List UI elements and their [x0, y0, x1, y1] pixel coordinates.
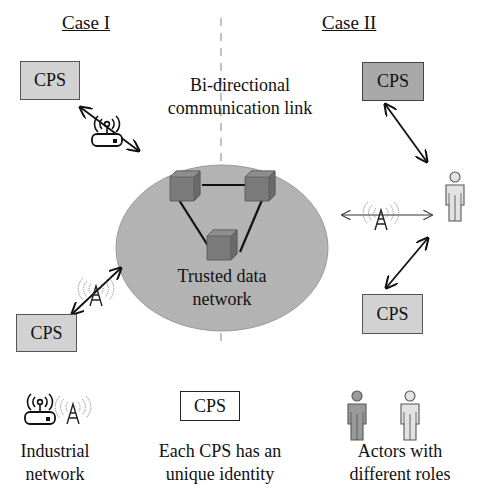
cps-box-case2-bottom: CPS: [362, 294, 423, 334]
legend-cps-box: CPS: [180, 391, 240, 421]
router-icon: [92, 116, 122, 146]
case-2-title: Case II: [322, 12, 376, 34]
cps-box-case1-bottom: CPS: [16, 314, 77, 352]
legend-industrial-label: Industrial network: [0, 440, 110, 486]
case-1-title: Case I: [62, 12, 110, 34]
link-label: Bi-directional communication link: [140, 74, 340, 120]
network-node-cube: [207, 230, 237, 260]
cps-box-case1-top: CPS: [20, 61, 80, 100]
network-label: Trusted data network: [152, 265, 292, 311]
legend-cps-label: Each CPS has an unique identity: [130, 440, 310, 486]
legend-actor-dark-icon: [348, 391, 366, 440]
network-node-cube: [170, 171, 200, 201]
actor-icon: [446, 172, 464, 221]
legend-router-icon: [25, 394, 55, 424]
cps-box-case2-top: CPS: [362, 62, 424, 101]
legend-tower-icon: [55, 396, 91, 424]
cell-tower-icon: [363, 202, 399, 230]
legend-actors-label: Actors with different roles: [325, 440, 475, 486]
legend-actor-light-icon: [401, 391, 419, 440]
network-node-cube: [245, 171, 275, 201]
